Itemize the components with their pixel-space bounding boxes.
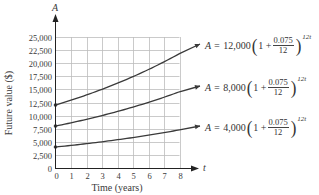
y-axis-variable: A xyxy=(51,2,59,13)
eq-open-paren: ( xyxy=(247,78,253,97)
y-tick-label: 17,500 xyxy=(29,72,52,82)
equation-label-12000: A = 12,000 ( 1 + 0.075 12 ) 12t xyxy=(205,36,311,55)
x-tick-label: 8 xyxy=(178,171,182,181)
x-tick-label: 0 xyxy=(54,171,58,181)
y-axis-label: Future value ($) xyxy=(3,71,15,135)
y-tick-label: 0 xyxy=(48,164,52,174)
eq-exponent: 12t xyxy=(302,33,311,41)
eq-coef: 4,000 xyxy=(223,122,246,133)
curve-line xyxy=(56,86,201,126)
y-tick-label: 20,000 xyxy=(29,59,52,69)
equation-label-4000: A = 4,000 ( 1 + 0.075 12 ) 12t xyxy=(205,118,306,137)
eq-var: A = xyxy=(205,40,220,51)
y-axis-ticks: 02,5005,0007,50010,00012,50015,00017,500… xyxy=(29,33,52,174)
x-tick-label: 2 xyxy=(85,171,89,181)
x-axis-variable: t xyxy=(203,162,206,173)
y-tick-label: 7,500 xyxy=(33,125,52,135)
x-axis-arrow-icon xyxy=(191,166,199,172)
eq-exponent: 12t xyxy=(297,115,306,123)
equation-label-8000: A = 8,000 ( 1 + 0.075 12 ) 12t xyxy=(205,78,306,97)
chart-area: 02,5005,0007,50010,00012,50015,00017,500… xyxy=(0,0,319,195)
curve-line xyxy=(56,44,201,105)
eq-fraction: 0.075 12 xyxy=(268,78,289,97)
curve-arrow-icon xyxy=(195,125,200,130)
eq-fraction: 0.075 12 xyxy=(273,36,294,55)
eq-fraction: 0.075 12 xyxy=(268,118,289,137)
x-axis-label: Time (years) xyxy=(91,182,142,194)
y-tick-label: 5,000 xyxy=(33,138,52,148)
eq-one-plus: 1 + xyxy=(258,40,271,51)
x-tick-label: 5 xyxy=(131,171,135,181)
eq-close-paren: ) xyxy=(296,36,302,55)
eq-denominator: 12 xyxy=(279,46,288,55)
eq-exponent: 12t xyxy=(297,75,306,83)
eq-one-plus: 1 + xyxy=(253,82,266,93)
eq-denominator: 12 xyxy=(274,88,283,97)
curves xyxy=(54,44,200,149)
gridlines xyxy=(56,37,181,168)
y-tick-label: 15,000 xyxy=(29,85,52,95)
eq-var: A = xyxy=(205,82,220,93)
eq-open-paren: ( xyxy=(252,36,258,55)
eq-close-paren: ) xyxy=(291,118,297,137)
x-tick-label: 6 xyxy=(147,171,151,181)
y-tick-label: 12,500 xyxy=(29,99,52,109)
x-tick-label: 4 xyxy=(116,171,121,181)
y-tick-label: 2,500 xyxy=(33,151,52,161)
x-tick-label: 1 xyxy=(69,171,73,181)
eq-coef: 12,000 xyxy=(223,40,251,51)
x-tick-label: 7 xyxy=(162,171,166,181)
eq-open-paren: ( xyxy=(247,118,253,137)
y-axis-arrow-icon xyxy=(53,14,59,22)
x-axis-ticks: 012345678 xyxy=(54,171,182,181)
eq-close-paren: ) xyxy=(291,78,297,97)
eq-one-plus: 1 + xyxy=(253,122,266,133)
y-tick-label: 10,000 xyxy=(29,112,52,122)
eq-coef: 8,000 xyxy=(223,82,246,93)
y-tick-label: 25,000 xyxy=(29,33,52,43)
eq-denominator: 12 xyxy=(274,128,283,137)
eq-var: A = xyxy=(205,122,220,133)
y-tick-label: 22,500 xyxy=(29,46,52,56)
x-tick-label: 3 xyxy=(100,171,104,181)
